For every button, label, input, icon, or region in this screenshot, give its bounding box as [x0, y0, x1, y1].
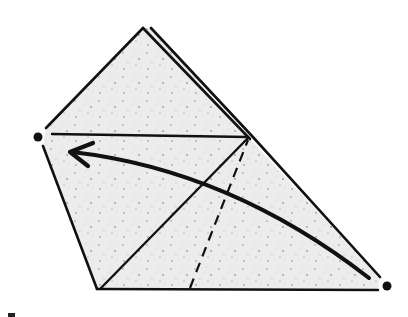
page-mark	[8, 313, 15, 317]
left-reference-dot	[34, 133, 43, 142]
right-reference-dot	[383, 282, 392, 291]
origami-diagram	[0, 0, 408, 317]
